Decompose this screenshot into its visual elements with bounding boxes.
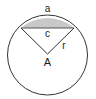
chord-label: c [45, 28, 50, 39]
radius-label: r [62, 40, 66, 51]
angle-label: A [44, 56, 52, 68]
radius-left [21, 28, 48, 54]
radius-right [48, 28, 75, 54]
arc-label: a [45, 3, 51, 14]
circular-segment-diagram: a c r A [0, 0, 96, 99]
